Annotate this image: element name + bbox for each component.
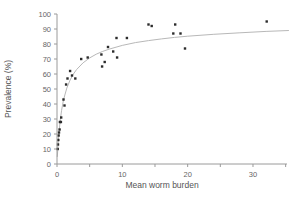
y-tick-label: 50 [43,85,51,94]
scatter-point [126,37,128,39]
y-tick-label: 60 [43,70,51,79]
prevalence-vs-worm-burden-figure: 01020304050607080901000102030 Mean worm … [0,0,291,203]
scatter-point [101,65,103,67]
x-tick-label: 10 [118,170,126,179]
scatter-point [104,61,106,63]
scatter-point [184,47,186,49]
scatter-point [57,134,59,136]
y-tick-label: 10 [43,145,51,154]
x-tick-label: 0 [55,170,59,179]
axis-ticks-group: 01020304050607080901000102030 [38,10,285,179]
y-tick-label: 0 [47,160,51,169]
y-tick-label: 90 [43,25,51,34]
y-tick-label: 30 [43,115,51,124]
scatter-point [58,128,60,130]
scatter-point [266,20,268,22]
y-tick-label: 100 [38,10,51,19]
scatter-point [58,131,60,133]
scatter-point [63,104,65,106]
scatter-point [65,83,67,85]
scatter-point [80,58,82,60]
y-tick-label: 70 [43,55,51,64]
scatter-point [107,46,109,48]
scatter-point [116,56,118,58]
scatter-point [179,32,181,34]
fit-curve [57,31,289,157]
scatter-point [174,23,176,25]
prevalence-chart: 01020304050607080901000102030 Mean worm … [0,0,291,203]
scatter-point [60,116,62,118]
scatter-point [69,70,71,72]
scatter-point [112,50,114,52]
scatter-points-group [57,20,268,150]
scatter-point [62,98,64,100]
scatter-point [71,74,73,76]
scatter-point [172,32,174,34]
scatter-point [87,56,89,58]
scatter-point [66,77,68,79]
scatter-point [60,121,62,123]
scatter-point [115,37,117,39]
x-tick-label: 30 [249,170,257,179]
y-tick-label: 80 [43,40,51,49]
scatter-point [147,23,149,25]
x-tick-label: 20 [183,170,191,179]
scatter-point [151,25,153,27]
scatter-point [100,53,102,55]
y-tick-label: 20 [43,130,51,139]
x-axis-label: Mean worm burden [125,180,199,190]
scatter-point [74,77,76,79]
y-tick-label: 40 [43,100,51,109]
y-axis-label: Prevalence (%) [3,60,13,118]
fit-curve-group [57,31,289,157]
